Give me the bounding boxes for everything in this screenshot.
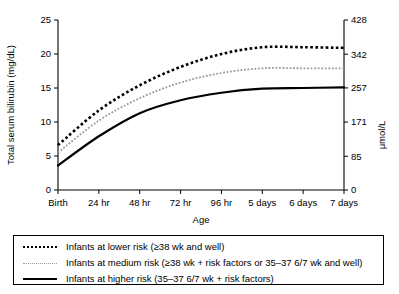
x-axis-tick-label: 48 hr: [129, 197, 151, 208]
y-axis-right-tick-label: 257: [351, 82, 367, 93]
legend-label-lower-risk: Infants at lower risk (≥38 wk and well): [66, 242, 224, 252]
y-axis-right-tick-label: 171: [351, 116, 367, 127]
y-axis-right-tick-label: 428: [351, 14, 367, 25]
x-axis-tick-label: 72 hr: [170, 197, 192, 208]
x-axis-tick-label: Birth: [48, 197, 68, 208]
legend-label-medium-risk: Infants at medium risk (≥38 wk + risk fa…: [66, 258, 362, 268]
y-axis-left-title: Total serum bilirubin (mg/dL): [5, 45, 16, 165]
legend-item-higher-risk: Infants at higher risk (35–37 6/7 wk + r…: [14, 271, 383, 287]
chart-legend: Infants at lower risk (≥38 wk and well) …: [13, 235, 384, 285]
lower-risk-line-sample-icon: [21, 242, 59, 252]
x-axis-tick-label: 5 days: [248, 197, 276, 208]
y-axis-right-tick-label: 0: [351, 184, 356, 195]
legend-label-higher-risk: Infants at higher risk (35–37 6/7 wk + r…: [66, 274, 274, 284]
x-axis-tick-label: 96 hr: [211, 197, 233, 208]
x-axis-title: Age: [193, 214, 210, 225]
legend-item-medium-risk: Infants at medium risk (≥38 wk + risk fa…: [14, 255, 383, 271]
y-axis-left-tick-label: 15: [40, 82, 51, 93]
x-axis-tick-label: 6 days: [289, 197, 317, 208]
y-axis-right-tick-label: 85: [351, 151, 362, 162]
higher-risk-line-sample-icon: [21, 274, 59, 284]
bilirubin-nomogram-chart: 0510152025085171257342428Birth24 hr48 hr…: [0, 0, 399, 294]
y-axis-right-tick-label: 342: [351, 49, 367, 60]
series-line-medium-risk: [58, 68, 344, 153]
y-axis-right-title: μmol/L: [376, 121, 387, 150]
y-axis-left-tick-label: 20: [40, 48, 51, 59]
y-axis-left-tick-label: 25: [40, 14, 51, 25]
x-axis-tick-label: 24 hr: [88, 197, 110, 208]
y-axis-left-tick-label: 0: [46, 184, 51, 195]
legend-item-lower-risk: Infants at lower risk (≥38 wk and well): [14, 239, 383, 255]
x-axis-tick-label: 7 days: [330, 197, 358, 208]
medium-risk-line-sample-icon: [21, 258, 59, 268]
y-axis-left-tick-label: 10: [40, 116, 51, 127]
y-axis-left-tick-label: 5: [46, 150, 51, 161]
series-line-higher-risk: [58, 87, 344, 165]
